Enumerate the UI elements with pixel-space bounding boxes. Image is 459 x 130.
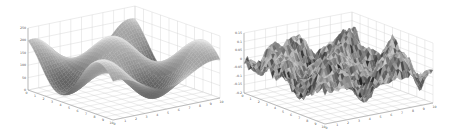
y-tick-label: 9 — [423, 107, 425, 111]
z-tick-label: 0.05 — [235, 48, 242, 52]
z-tick-label: -0.15 — [234, 82, 242, 86]
x-tick-label: 0 — [25, 91, 27, 95]
x-tick-label: 3 — [266, 103, 268, 107]
y-tick-label: 4 — [156, 113, 158, 117]
y-tick-label: 10 — [432, 105, 436, 109]
x-tick-label: 5 — [282, 110, 284, 114]
x-tick-label: 0 — [241, 94, 243, 98]
x-tick-label: 10 — [109, 121, 113, 125]
x-tick-label: 9 — [314, 122, 316, 126]
x-tick-label: 4 — [59, 103, 61, 107]
x-tick-label: 2 — [258, 100, 260, 104]
left-surface-plot: 050100150200250001122334455667788991010 — [0, 0, 229, 130]
x-tick-label: 6 — [290, 113, 292, 117]
right-surface-canvas: -0.2-0.15-0.1-0.0500.050.10.150011223344… — [229, 0, 459, 130]
z-tick-label: 0 — [240, 57, 242, 61]
z-tick-label: 200 — [20, 38, 26, 42]
y-tick-label: 1 — [124, 119, 126, 123]
y-tick-label: 2 — [135, 117, 137, 121]
x-tick-label: 8 — [93, 115, 95, 119]
y-tick-label: 6 — [178, 108, 180, 112]
z-tick-label: 50 — [22, 76, 26, 80]
y-tick-label: 2 — [347, 121, 349, 125]
x-tick-label: 2 — [42, 97, 44, 101]
y-tick-label: 6 — [390, 113, 392, 117]
surface-mesh — [28, 19, 220, 99]
x-tick-label: 6 — [76, 109, 78, 113]
surface-mesh — [244, 27, 433, 102]
z-tick-label: 100 — [20, 63, 26, 67]
y-tick-label: 0 — [325, 126, 327, 130]
y-tick-label: 4 — [369, 117, 371, 121]
x-tick-label: 1 — [250, 97, 252, 101]
z-tick-label: 150 — [20, 51, 26, 55]
x-tick-label: 4 — [274, 106, 276, 110]
left-surface-canvas: 050100150200250001122334455667788991010 — [0, 0, 229, 130]
y-tick-label: 5 — [379, 115, 381, 119]
x-tick-label: 3 — [51, 100, 53, 104]
y-tick-label: 10 — [219, 100, 223, 104]
y-tick-label: 8 — [412, 109, 414, 113]
x-tick-label: 7 — [298, 116, 300, 120]
x-tick-label: 10 — [321, 125, 325, 129]
x-tick-label: 9 — [102, 118, 104, 122]
y-tick-label: 3 — [146, 115, 148, 119]
x-tick-label: 8 — [306, 119, 308, 123]
z-tick-label: 0.15 — [235, 31, 242, 35]
y-tick-label: 8 — [199, 104, 201, 108]
y-tick-label: 0 — [113, 122, 115, 126]
right-surface-plot: -0.2-0.15-0.1-0.0500.050.10.150011223344… — [229, 0, 459, 130]
x-tick-label: 1 — [34, 94, 36, 98]
y-tick-label: 7 — [401, 111, 403, 115]
y-tick-label: 5 — [167, 111, 169, 115]
z-tick-label: -0.1 — [236, 74, 242, 78]
y-tick-label: 9 — [210, 102, 212, 106]
z-tick-label: 0.1 — [237, 40, 242, 44]
y-tick-label: 3 — [358, 119, 360, 123]
z-tick-label: 250 — [20, 26, 26, 30]
z-tick-label: -0.05 — [234, 65, 242, 69]
x-tick-label: 5 — [68, 106, 70, 110]
y-tick-label: 7 — [188, 106, 190, 110]
y-tick-label: 1 — [336, 123, 338, 127]
x-tick-label: 7 — [85, 112, 87, 116]
